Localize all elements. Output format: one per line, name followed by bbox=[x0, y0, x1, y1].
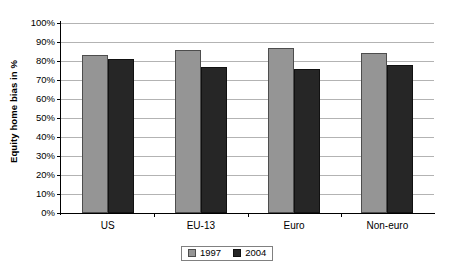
bar-us-2004[interactable] bbox=[108, 59, 134, 213]
x-axis-label-euro: Euro bbox=[284, 220, 305, 231]
y-tick-mark bbox=[57, 194, 61, 195]
x-tick-mark bbox=[154, 213, 155, 217]
y-tick-mark bbox=[57, 156, 61, 157]
y-tick-label: 80% bbox=[36, 56, 55, 66]
y-tick-mark bbox=[57, 80, 61, 81]
legend-label-2004: 2004 bbox=[245, 248, 266, 258]
y-tick-label: 90% bbox=[36, 37, 55, 47]
y-tick-label: 20% bbox=[36, 170, 55, 180]
y-tick-label: 70% bbox=[36, 75, 55, 85]
y-tick-label: 40% bbox=[36, 132, 55, 142]
chart-legend: 1997 2004 bbox=[181, 246, 273, 261]
y-axis-title: Equity home bias in % bbox=[8, 12, 19, 212]
black-square-icon bbox=[233, 249, 241, 257]
gray-square-icon bbox=[188, 249, 196, 257]
plot-area: 0%10%20%30%40%50%60%70%80%90%100% bbox=[61, 23, 434, 213]
bar-group bbox=[268, 23, 320, 213]
bar-eu-13-1997[interactable] bbox=[175, 50, 201, 213]
equity-home-bias-bar-chart: Equity home bias in % 0%10%20%30%40%50%6… bbox=[0, 0, 451, 277]
y-tick-mark bbox=[57, 137, 61, 138]
y-tick-mark bbox=[57, 61, 61, 62]
y-tick-label: 60% bbox=[36, 94, 55, 104]
y-tick-label: 10% bbox=[36, 189, 55, 199]
legend-label-1997: 1997 bbox=[200, 248, 221, 258]
bar-non-euro-2004[interactable] bbox=[387, 65, 413, 213]
bar-euro-2004[interactable] bbox=[294, 69, 320, 213]
y-tick-label: 50% bbox=[36, 113, 55, 123]
bar-group bbox=[82, 23, 134, 213]
y-tick-label: 0% bbox=[41, 208, 55, 218]
bar-non-euro-1997[interactable] bbox=[361, 53, 387, 213]
bar-eu-13-2004[interactable] bbox=[201, 67, 227, 213]
y-tick-mark bbox=[57, 118, 61, 119]
x-axis-label-non-euro: Non-euro bbox=[367, 220, 409, 231]
bar-euro-1997[interactable] bbox=[268, 48, 294, 213]
x-axis-label-us: US bbox=[101, 220, 115, 231]
y-tick-label: 100% bbox=[31, 18, 55, 28]
bar-group bbox=[361, 23, 413, 213]
y-tick-mark bbox=[57, 42, 61, 43]
legend-item-1997[interactable]: 1997 bbox=[188, 248, 221, 258]
y-tick-mark bbox=[57, 99, 61, 100]
y-tick-label: 30% bbox=[36, 151, 55, 161]
x-axis-label-eu-13: EU-13 bbox=[187, 220, 215, 231]
y-tick-mark bbox=[57, 23, 61, 24]
legend-item-2004[interactable]: 2004 bbox=[233, 248, 266, 258]
y-tick-mark bbox=[57, 175, 61, 176]
bar-us-1997[interactable] bbox=[82, 55, 108, 213]
x-tick-mark bbox=[248, 213, 249, 217]
y-tick-mark bbox=[57, 213, 61, 214]
x-tick-mark bbox=[341, 213, 342, 217]
bar-group bbox=[175, 23, 227, 213]
